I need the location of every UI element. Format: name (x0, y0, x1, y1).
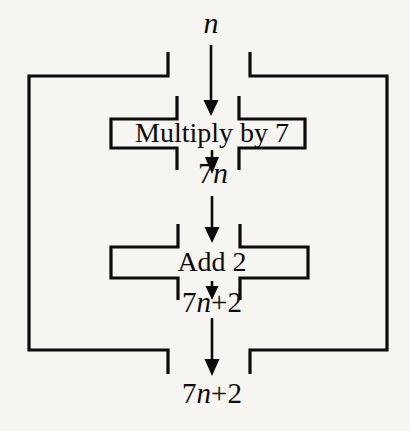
label-intermediate-7n: 7n (198, 158, 228, 188)
arrow-n-to-multiply (204, 45, 219, 116)
label-output-7n2-final: 7n+2 (182, 379, 242, 408)
flow-arrows (204, 45, 220, 376)
flowchart-lines (0, 0, 410, 431)
label-output-7n2-inner: 7n+2 (182, 288, 242, 317)
label-multiply-by-7: Multiply by 7 (135, 119, 289, 147)
flowchart-canvas: n Multiply by 7 7n Add 2 7n+2 7n+2 (0, 0, 410, 431)
label-input-n: n (204, 8, 219, 38)
arrow-7n-to-add (205, 196, 220, 243)
arrow-7n2-to-final (205, 318, 220, 376)
label-add-2: Add 2 (177, 248, 246, 276)
